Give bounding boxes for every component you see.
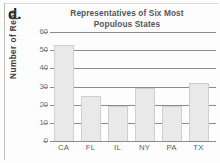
y-tick-mark-right-60 xyxy=(212,32,216,33)
x-tick-label-tx: TX xyxy=(184,144,214,152)
x-tick-label-il: IL xyxy=(103,144,133,152)
figure-panel: d. Representatives of Six Most Populous … xyxy=(0,0,220,163)
y-tick-mark-right-10 xyxy=(212,123,216,124)
y-tick-mark-right-50 xyxy=(212,50,216,51)
bar-series xyxy=(50,32,212,141)
y-axis-ticks-right xyxy=(212,32,218,141)
bar-ny xyxy=(135,88,155,141)
y-tick-mark-20 xyxy=(43,105,48,106)
bar-pa xyxy=(162,106,182,141)
y-tick-mark-50 xyxy=(43,50,48,51)
chart-title-line-1: Representatives of Six Most xyxy=(44,8,210,19)
x-axis-tick-labels: CAFLILNYPATX xyxy=(50,144,212,158)
y-tick-mark-right-0 xyxy=(212,141,216,142)
y-axis-tick-labels: 0102030405060 xyxy=(22,32,48,141)
gridline-0 xyxy=(50,141,212,142)
x-tick-label-ca: CA xyxy=(49,144,79,152)
y-tick-mark-10 xyxy=(43,123,48,124)
y-tick-mark-60 xyxy=(43,32,48,33)
y-axis-title: Number of Reps xyxy=(10,0,18,96)
bar-il xyxy=(108,106,128,141)
plot-area xyxy=(50,32,212,141)
y-tick-mark-right-40 xyxy=(212,68,216,69)
bar-tx xyxy=(189,83,209,141)
y-tick-mark-right-20 xyxy=(212,105,216,106)
y-tick-mark-0 xyxy=(43,141,48,142)
bar-fl xyxy=(81,96,101,141)
chart-title: Representatives of Six Most Populous Sta… xyxy=(44,8,210,29)
x-tick-label-ny: NY xyxy=(130,144,160,152)
y-tick-mark-30 xyxy=(43,87,48,88)
bar-ca xyxy=(54,45,74,141)
y-tick-mark-right-30 xyxy=(212,87,216,88)
x-tick-label-pa: PA xyxy=(157,144,187,152)
chart-title-line-2: Populous States xyxy=(44,19,210,30)
y-tick-mark-40 xyxy=(43,68,48,69)
x-tick-label-fl: FL xyxy=(76,144,106,152)
